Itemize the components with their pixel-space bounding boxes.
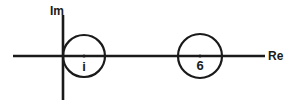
diagram-canvas: [0, 0, 292, 110]
circle-i-center-dot: [82, 54, 85, 57]
complex-plane-diagram: Im Re i 6: [0, 0, 292, 110]
circle-i-center-label: i: [78, 60, 90, 73]
imaginary-axis-label: Im: [50, 5, 64, 17]
circle-6-center-label: 6: [194, 59, 206, 72]
real-axis-label: Re: [268, 50, 283, 62]
